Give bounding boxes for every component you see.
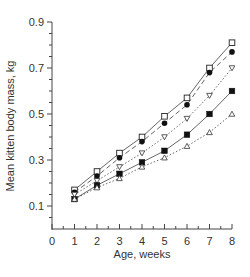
axes: 0.10.30.50.70.9012345678 bbox=[29, 16, 235, 247]
data-point bbox=[162, 114, 168, 120]
x-tick-label: 5 bbox=[161, 235, 167, 247]
x-axis-label: Age, weeks bbox=[114, 248, 171, 260]
data-point bbox=[229, 88, 235, 94]
y-tick-label: 0.3 bbox=[29, 154, 44, 166]
data-point bbox=[184, 95, 190, 101]
data-point bbox=[162, 135, 168, 140]
x-tick-label: 8 bbox=[229, 235, 235, 247]
x-tick-label: 1 bbox=[71, 235, 77, 247]
x-tick-label: 2 bbox=[94, 235, 100, 247]
data-point bbox=[207, 111, 213, 117]
series-group bbox=[72, 40, 235, 202]
data-point bbox=[162, 148, 168, 154]
chart: 0.10.30.50.70.9012345678 Age, weeks Mean… bbox=[0, 0, 250, 277]
data-point bbox=[207, 130, 213, 135]
data-point bbox=[229, 40, 235, 46]
data-point bbox=[139, 151, 145, 156]
data-point bbox=[229, 49, 235, 55]
data-point bbox=[117, 155, 123, 161]
data-point bbox=[229, 111, 235, 116]
x-tick-label: 7 bbox=[206, 235, 212, 247]
data-point bbox=[117, 165, 123, 170]
data-point bbox=[139, 139, 145, 145]
y-axis-label: Mean kitten body mass, kg bbox=[4, 61, 16, 192]
data-point bbox=[207, 70, 213, 76]
data-point bbox=[184, 132, 190, 138]
data-point bbox=[184, 102, 190, 108]
x-tick-label: 4 bbox=[139, 235, 145, 247]
series-filled-square bbox=[72, 88, 235, 202]
data-point bbox=[162, 120, 168, 126]
y-tick-label: 0.5 bbox=[29, 108, 44, 120]
x-tick-label: 3 bbox=[116, 235, 122, 247]
data-point bbox=[184, 143, 190, 148]
y-tick-label: 0.9 bbox=[29, 16, 44, 28]
y-tick-label: 0.1 bbox=[29, 200, 44, 212]
data-point bbox=[162, 155, 168, 160]
x-tick-label: 0 bbox=[49, 235, 55, 247]
y-tick-label: 0.7 bbox=[29, 62, 44, 74]
x-tick-label: 6 bbox=[184, 235, 190, 247]
